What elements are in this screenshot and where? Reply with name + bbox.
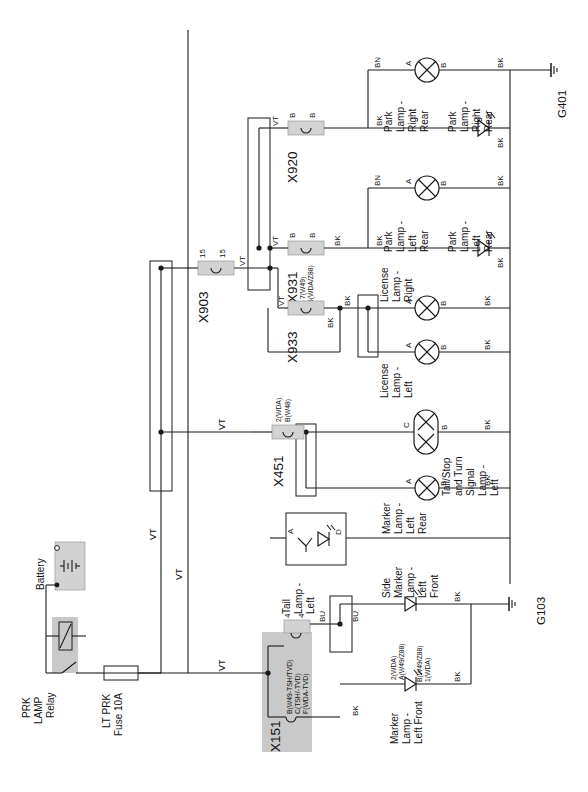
pin-label-x931-right: B [308,233,317,238]
pin-label-b-marker-lr: B [439,481,448,486]
wire-label-bk-park-lr-led-out: BK [496,257,505,268]
wire-label-vt-x903: VT [238,256,247,266]
label-side-marker-lf-l4: Left [417,581,428,598]
wire-label-vt-trunk-mid: VT [148,528,158,540]
pin-label-x151-right: 4 [297,613,306,618]
pin-label-a-tail-lamp-left: A [286,528,295,534]
label-tail-stop-l3: Signal [465,468,476,496]
pin-label-x903-right: 15 [218,249,227,258]
connector-label-x451: X451 [271,455,286,487]
label-park-lr-led-l1: Park [447,230,458,252]
wire-label-vt-x933: VT [277,296,286,306]
label-park-lr-led-l3: Left [471,235,482,252]
wire-label-bk-x931-right: BK [333,235,342,246]
pin-label-x151-row3: F(WDA-TVD) [302,674,310,714]
wire-label-vt-branch-x151: VT [217,659,227,671]
label-marker-lf-l3: Left Front [413,701,424,744]
label-tail-lamp-left-l2: Lamp - [293,583,304,614]
battery-label: Battery [35,558,46,590]
pin-label-x920-right: B [308,113,317,118]
label-park-lr-led-l4: Rear [483,230,494,252]
pin-label-x451-left: 2(WDA) [275,398,283,422]
wiring-diagram-sheet: .ln { stroke:#1a1a1a; stroke-width:1.1; … [0,0,588,792]
wire-label-bk-side-marker-out: BK [453,591,462,602]
pin-label-a-marker-lr: A [404,478,413,484]
label-side-marker-lf-l2: Marker [393,566,404,598]
pin-label-x151-row2: C(TSH/-TVD) [294,673,302,714]
pin-label-x931-left: B [288,233,297,238]
wire-label-bk-x933-right: BK [326,317,335,328]
label-marker-lr-l4: Rear [417,512,428,534]
wire-label-bk-license-right-in: BK [343,295,352,306]
wire-label-vt-branch-x451: VT [217,418,227,430]
pin-label-x451-right: B(W48) [284,399,292,422]
label-park-rr-led-l4: Rear [483,110,494,132]
label-park-lr-bulb-l1: Park [383,230,394,252]
label-park-rr-led-l1: Park [447,110,458,132]
label-marker-lr-l2: Lamp - [393,503,404,534]
pin-label-marker-lf-in-2: A(W49/Z88) [398,643,406,680]
wire-label-bk-park-rr-led-in: BK [375,115,384,126]
pin-label-b-park-lr: B [439,181,448,186]
pin-label-b-license-right: B [439,301,448,306]
label-license-right-l3: Right [403,278,414,302]
label-marker-lr-l3: Left [405,517,416,534]
fuse-label-l1: LT PRK [101,694,112,728]
label-side-marker-lf-l5: Front [429,574,440,598]
connector-label-x903: X903 [196,291,211,323]
label-side-marker-lf-l1: Side [381,578,392,598]
label-marker-lf-l2: Lamp - [401,713,412,744]
pin-label-b-license-left: B [439,345,448,350]
pin-label-b-tail-stop: B [440,425,449,430]
ground-label-g401: G401 [556,90,568,118]
pin-label-b-park-rr: B [439,63,448,68]
label-license-left-l3: Left [403,381,414,398]
wire-label-vt-x931: VT [271,236,280,246]
label-side-marker-lf-l3: Lamp - [405,567,416,598]
wire-label-bk-license-right-out: BK [483,295,492,306]
label-tail-lamp-left-l3: Left [305,597,316,614]
label-license-left-l1: License [379,363,390,398]
wire-label-bk-park-rr-out: BK [496,57,505,68]
pin-label-d-tail-lamp-left: D [334,529,343,535]
label-tail-stop-l1: Tail/Stop [441,457,452,496]
ground-label-g103: G103 [535,597,547,625]
relay-label-l2: LAMP [33,696,44,724]
pin-label-a-park-lr: A [404,178,413,184]
connector-label-x931: X931 [285,271,300,303]
label-tail-stop-l2: and Turn [453,457,464,496]
label-park-lr-bulb-l4: Rear [419,230,430,252]
pin-label-x903-left: 15 [198,249,207,258]
wire-label-bk-park-lr-led-in: BK [375,235,384,246]
pin-label-x151-left: 4 [283,613,292,618]
pin-sub-label-x931-right: 5(WDA/Z88) [307,265,315,303]
connector-label-x933: X933 [285,331,300,363]
label-license-left-l2: Lamp - [391,367,402,398]
wire-label-bn-right-rear: BN [373,57,382,68]
connector-label-x151: X151 [268,720,283,752]
wire-label-bk-x151-lower: BK [351,705,360,716]
fuse-label-l2: Fuse 10A [113,693,124,736]
pin-label-a-license-left: A [404,342,413,348]
label-marker-lf-l1: Marker [389,712,400,744]
pin-label-x920-left: B [288,113,297,118]
pin-label-c-tail-stop: C [402,422,411,428]
label-park-rr-bulb-l1: Park [383,110,394,132]
label-park-rr-led-l3: Right [471,108,482,132]
label-park-lr-bulb-l3: Left [407,235,418,252]
label-park-rr-bulb-l2: Lamp - [395,101,406,132]
pin-label-marker-lf-in-1: 2(WDA) [390,656,398,680]
label-license-right-l1: License [379,267,390,302]
wire-label-bk-marker-lf-out: BK [453,671,462,682]
wire-label-bk-license-left-out: BK [483,339,492,350]
wire-label-bk-marker-lr-out: BK [483,475,492,486]
relay-label-l3: Relay [45,692,56,718]
wire-label-bk-tail-stop-out: BK [483,419,492,430]
label-park-rr-bulb-l4: Rear [419,110,430,132]
connector-label-x920: X920 [285,151,300,183]
wire-label-bu-upper: BU [318,611,327,622]
label-marker-lr-l1: Marker [381,502,392,534]
label-park-rr-led-l2: Lamp - [459,101,470,132]
pin-sub-label-x931-left: 7(W49) [299,277,307,299]
label-license-right-l2: Lamp - [391,271,402,302]
